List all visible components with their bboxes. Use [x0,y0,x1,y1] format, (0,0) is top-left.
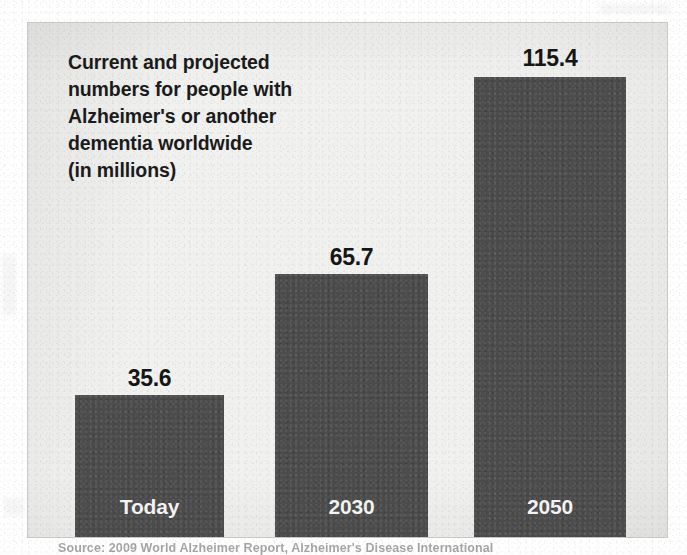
chart-frame: 35.6 Today 65.7 2030 115.4 2050 Current … [27,22,668,538]
paper-smudge-left [2,255,16,315]
bar-value-label: 65.7 [275,246,428,269]
bar-category-label: 2050 [474,496,626,517]
bar-category-label: 2030 [275,496,428,517]
bar-category-label: Today [75,496,224,517]
paper-smudge-bottom-left [4,498,24,516]
paper-smudge-top-right [600,4,670,14]
source-note: Source: 2009 World Alzheimer Report, Alz… [58,542,638,555]
bar-value-label: 35.6 [75,367,224,390]
bar-value-label: 115.4 [474,47,626,70]
bar-group-2050[interactable]: 115.4 2050 [474,22,626,537]
chart-title: Current and projected numbers for people… [68,49,398,184]
bar-2050[interactable] [474,77,626,537]
